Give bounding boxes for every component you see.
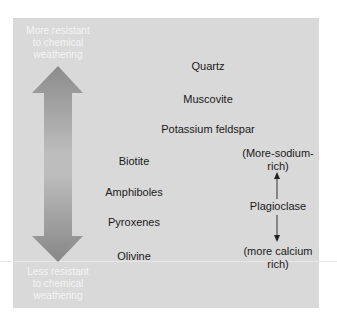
label-line: (more calcium [243, 245, 312, 258]
label-line: rich) [243, 258, 312, 271]
plagioclase-label: Plagioclase [250, 200, 306, 213]
plagioclase-arrows-icon [0, 0, 337, 325]
plagioclase-calcium-label: (more calcium rich) [243, 245, 312, 271]
